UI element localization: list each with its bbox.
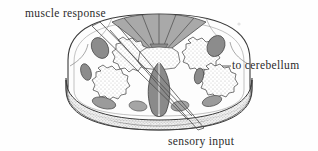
- spinal-cord-illustration: [0, 0, 318, 151]
- label-to-cerebellum: to cerebellum: [232, 60, 299, 72]
- paper-speck: [237, 22, 240, 25]
- label-muscle-response: muscle response: [25, 8, 106, 20]
- figure-root: muscle response to cerebellum sensory in…: [0, 0, 318, 151]
- label-sensory-input: sensory input: [168, 136, 234, 148]
- cord-body: [60, 14, 260, 130]
